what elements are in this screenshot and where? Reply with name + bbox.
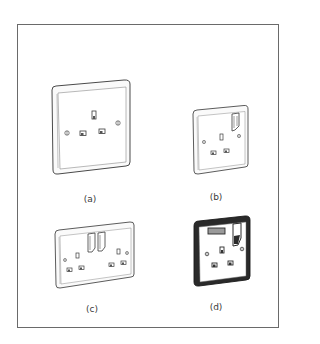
socket-a-single-unswitched-icon [48,78,134,178]
panel-label-b: (b) [201,192,231,202]
panel-label-c: (c) [77,304,107,314]
socket-d-switched-neon-icon [191,214,253,290]
panel-label-a: (a) [75,194,105,204]
socket-c-double-switched-icon [52,220,138,292]
socket-b-single-switched-icon [190,104,252,178]
panel-label-d: (d) [201,302,231,312]
